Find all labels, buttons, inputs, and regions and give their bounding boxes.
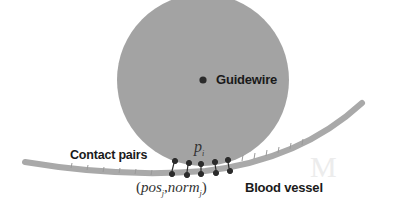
point-p-label: pi xyxy=(194,138,204,158)
paren-close: ) xyxy=(202,179,207,195)
pos-symbol: pos xyxy=(141,179,162,195)
diagram-canvas: M xyxy=(0,0,393,211)
contact-pairs-label: Contact pairs xyxy=(70,148,147,162)
guidewire-center-dot xyxy=(199,76,206,83)
pos-norm-label: (posj,normj) xyxy=(136,179,207,198)
point-p-subscript: i xyxy=(202,149,204,158)
point-p-symbol: p xyxy=(194,138,202,155)
norm-symbol: norm xyxy=(168,179,200,195)
guidewire-label: Guidewire xyxy=(216,72,277,87)
blood-vessel-label: Blood vessel xyxy=(245,180,323,195)
